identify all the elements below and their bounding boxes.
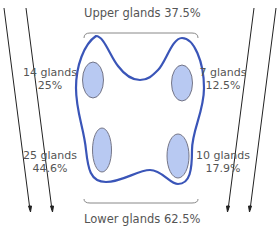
gland-count: 14 glands	[22, 66, 78, 79]
parathyroid-diagram	[0, 0, 278, 235]
gland-lower-left	[93, 128, 112, 172]
gland-percent: 25%	[22, 79, 78, 92]
gland-count: 7 glands	[195, 66, 251, 79]
gland-percent: 44.6%	[20, 162, 80, 175]
gland-upper-left	[83, 62, 104, 98]
gland-label-upper-right: 7 glands 12.5%	[195, 66, 251, 92]
gland-label-lower-right: 10 glands 17.9%	[190, 149, 256, 175]
right-outer-arrow	[250, 8, 276, 210]
arrowhead-icon	[227, 206, 230, 212]
gland-label-lower-left: 25 glands 44.6%	[20, 149, 80, 175]
arrow-lines	[4, 8, 276, 212]
arrowhead-icon	[29, 206, 32, 212]
arrowhead-icon	[249, 206, 252, 212]
gland-percent: 17.9%	[190, 162, 256, 175]
gland-lower-right	[167, 134, 189, 178]
arrowhead-icon	[51, 206, 54, 212]
lower-glands-title: Lower glands 62.5%	[84, 213, 198, 226]
gland-count: 25 glands	[20, 149, 80, 162]
gland-label-upper-left: 14 glands 25%	[22, 66, 78, 92]
lower-bracket	[84, 199, 198, 203]
left-outer-arrow	[4, 8, 30, 210]
gland-percent: 12.5%	[195, 79, 251, 92]
right-inner-arrow	[228, 8, 254, 210]
upper-glands-title: Upper glands 37.5%	[84, 7, 198, 20]
left-inner-arrow	[26, 8, 52, 210]
gland-count: 10 glands	[190, 149, 256, 162]
gland-upper-right	[172, 65, 193, 101]
